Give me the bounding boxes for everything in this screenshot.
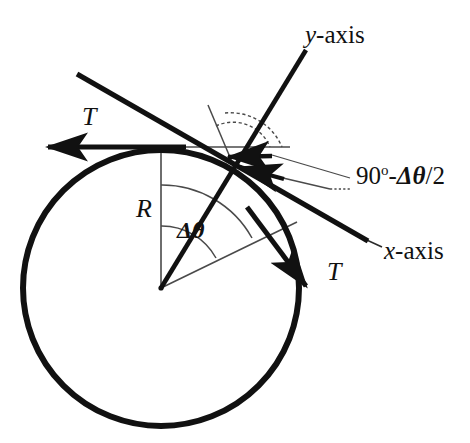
angle-label-minus: - bbox=[389, 162, 397, 189]
tension-arrow-lower bbox=[247, 207, 306, 286]
angle-label-number: 90 bbox=[356, 162, 381, 189]
x-axis-label: x-axis bbox=[384, 238, 444, 263]
tension-label-upper: T bbox=[82, 104, 96, 130]
angle-label: 90o-Δθ/2 bbox=[356, 163, 445, 188]
pulley-tension-diagram bbox=[0, 0, 470, 443]
radius-label: R bbox=[136, 196, 152, 222]
delta-theta-label: Δθ bbox=[177, 218, 205, 242]
angle-leader-line-upper bbox=[272, 155, 350, 178]
angle-label-divider: /2 bbox=[425, 162, 444, 189]
y-axis-label-suffix: -axis bbox=[316, 21, 365, 48]
figure-root: y-axis x-axis T T R Δθ 90o-Δθ/2 bbox=[0, 0, 470, 443]
degree-icon: o bbox=[381, 162, 389, 178]
angle-dashed-arc-outer bbox=[225, 113, 282, 147]
angle-label-delta-theta: Δθ bbox=[397, 162, 426, 189]
x-axis-label-suffix: -axis bbox=[395, 237, 444, 264]
angle-leader-line-lower bbox=[283, 178, 330, 189]
x-axis-label-variable: x bbox=[384, 237, 395, 264]
y-axis-label: y-axis bbox=[305, 22, 365, 47]
y-axis-label-variable: y bbox=[305, 21, 316, 48]
angle-callout-arrow-upper bbox=[228, 156, 272, 157]
circle-center-point bbox=[158, 285, 163, 290]
tension-label-lower: T bbox=[327, 259, 341, 285]
